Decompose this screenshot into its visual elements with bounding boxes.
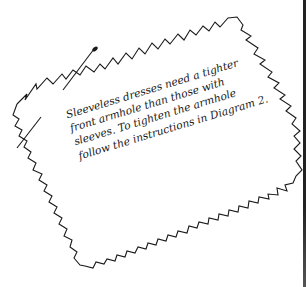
pinked-edge-outline [13,17,302,268]
page-edge-rule [303,0,306,287]
fabric-swatch-illustration [0,0,307,287]
pin-shaft [63,49,94,90]
